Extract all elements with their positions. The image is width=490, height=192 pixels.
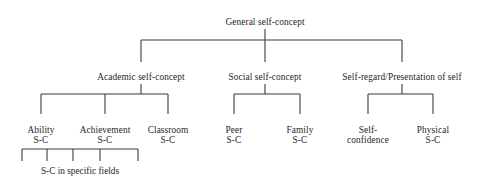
node-ability-sc-line2: S-C (27, 135, 54, 145)
node-achievement-sc-line2: S-C (80, 135, 131, 145)
node-classroom-sc-line2: S-C (148, 135, 189, 145)
node-family-sc: Family S-C (287, 125, 314, 145)
node-self-confidence: Self- confidence (347, 125, 389, 145)
node-classroom-sc: Classroom S-C (148, 125, 189, 145)
node-physical-sc: Physical S-C (417, 125, 449, 145)
node-physical-sc-line1: Physical (417, 125, 449, 135)
node-achievement-sc: Achievement S-C (80, 125, 131, 145)
node-family-sc-line1: Family (287, 125, 314, 135)
node-classroom-sc-line1: Classroom (148, 125, 189, 135)
node-social-self-concept: Social self-concept (229, 72, 302, 82)
node-peer-sc-line1: Peer (226, 125, 243, 135)
node-self-regard-presentation-of-self: Self-regard/Presentation of self (342, 72, 461, 82)
node-physical-sc-line2: S-C (417, 135, 449, 145)
node-peer-sc-line2: S-C (226, 135, 243, 145)
node-achievement-sc-line1: Achievement (80, 125, 131, 135)
node-ability-sc: Ability S-C (27, 125, 54, 145)
node-peer-sc: Peer S-C (226, 125, 243, 145)
node-academic-self-concept: Academic self-concept (97, 72, 185, 82)
node-family-sc-line2: S-C (287, 135, 314, 145)
node-ability-sc-line1: Ability (27, 125, 54, 135)
diagram-connector-lines (0, 0, 490, 192)
self-concept-hierarchy-diagram: General self-concept Academic self-conce… (0, 0, 490, 192)
bracket-caption-sc-in-specific-fields: S-C in specific fields (41, 166, 119, 176)
node-self-confidence-line2: confidence (347, 135, 389, 145)
node-general-self-concept: General self-concept (225, 17, 304, 27)
node-self-confidence-line1: Self- (347, 125, 389, 135)
